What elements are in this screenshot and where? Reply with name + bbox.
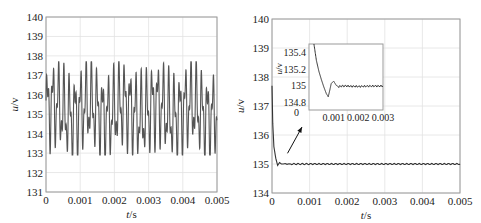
x-tick-label: 0.002	[335, 195, 360, 207]
x-tick-label: 0.005	[205, 194, 230, 206]
y-tick-label: 139	[27, 30, 44, 42]
y-tick-label: 134	[253, 187, 270, 199]
y-tick-label: 133	[27, 147, 44, 159]
x-tick-label: 0.004	[410, 195, 435, 207]
inset-x-tick-label: 0.001	[322, 112, 345, 123]
y-axis-label: u/v	[234, 98, 246, 113]
x-axis-label: t/s	[126, 208, 136, 220]
y-tick-label: 137	[253, 100, 270, 112]
right-chart: 13413513613713813914000.0010.0020.0030.0…	[234, 13, 473, 221]
inset-origin-label: 0	[294, 107, 299, 118]
inset-y-tick-label: 135	[291, 80, 306, 91]
y-tick-label: 135	[27, 108, 44, 120]
x-tick-label: 0	[269, 195, 275, 207]
inset-y-tick-label: 135.2	[284, 64, 307, 75]
left-chart: 13113213313413513613713813914000.0010.00…	[8, 11, 230, 220]
x-tick-label: 0.003	[136, 194, 161, 206]
figure: 13113213313413513613713813914000.0010.00…	[0, 0, 481, 223]
y-tick-label: 132	[27, 167, 44, 179]
y-tick-label: 140	[253, 13, 270, 25]
y-tick-label: 139	[253, 42, 270, 54]
inset-x-tick-label: 0.003	[372, 112, 395, 123]
inset-x-tick-label: 0.002	[347, 112, 370, 123]
y-tick-label: 140	[27, 11, 44, 23]
x-tick-label: 0.001	[68, 194, 93, 206]
x-axis-label: t/s	[361, 209, 371, 221]
x-tick-label: 0.003	[372, 195, 397, 207]
y-tick-label: 135	[253, 158, 270, 170]
x-tick-label: 0.002	[102, 194, 127, 206]
inset-y-tick-label: 135.4	[284, 47, 307, 58]
x-tick-label: 0.005	[448, 195, 473, 207]
inset-y-axis-label: u/v	[274, 63, 284, 75]
y-tick-label: 138	[27, 50, 44, 62]
y-tick-label: 131	[27, 186, 44, 198]
y-tick-label: 134	[27, 128, 44, 140]
y-tick-label: 136	[253, 129, 270, 141]
y-axis-label: u/v	[8, 97, 20, 112]
x-tick-label: 0	[43, 194, 49, 206]
y-tick-label: 137	[27, 69, 44, 81]
y-tick-label: 136	[27, 89, 44, 101]
x-tick-label: 0.004	[170, 194, 195, 206]
x-tick-label: 0.001	[297, 195, 322, 207]
y-tick-label: 138	[253, 71, 270, 83]
